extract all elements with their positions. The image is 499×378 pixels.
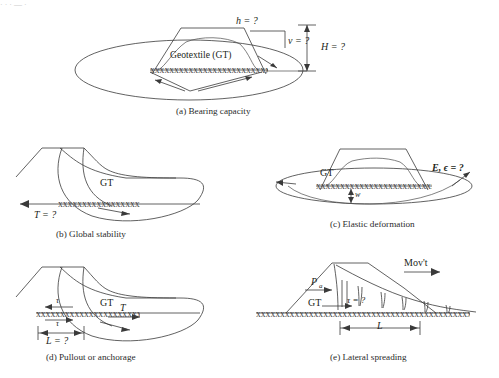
panel-d-tau-bottom-label: τ — [56, 320, 59, 328]
panel-a-artwork — [75, 25, 316, 100]
panel-d-caption: (d) Pullout or anchorage — [46, 352, 136, 362]
figure-geotextile-design-cases: · · · — · — [0, 0, 499, 378]
panel-b-geotextile-marker: xxxxxxxxxxxxxxxxxxxxxxxxxxxxxxxxxxxxxxxx… — [58, 198, 140, 209]
panel-e-movement-label: Mov't — [404, 258, 427, 268]
panel-b-gt-label: GT — [100, 178, 113, 188]
panel-b-T-label: T = ? — [34, 210, 56, 220]
panel-c-gt-label: GT — [320, 168, 333, 178]
panel-a-h-label: h = ? — [236, 16, 258, 26]
panel-c-artwork — [276, 149, 472, 204]
panel-a-v-label: v = ? — [288, 36, 309, 46]
panel-d-L-label: L = ? — [46, 336, 68, 346]
panel-c-caption: (c) Elastic deformation — [330, 219, 415, 229]
panel-e-gt-label: GT — [308, 298, 321, 308]
panel-e-tau-label: τ = ? — [347, 296, 365, 305]
panel-c-w-label: w — [355, 191, 360, 199]
panel-e-artwork — [256, 263, 476, 335]
panel-d-geotextile-marker: xxxxxxxxxxxxxxxxxxxxxxxxxxxxxxxxxxxxxxxx… — [36, 308, 140, 319]
panel-e-active-pressure-label: P — [311, 277, 317, 287]
panel-e-geotextile-marker: xxxxxxxxxxxxxxxxxxxxxxxxxxxxxxxxxxxxxxxx… — [256, 308, 470, 319]
panel-d-gt-label: GT — [100, 298, 113, 308]
panel-c-modulus-strain-label: E, ϵ = ? — [432, 163, 464, 173]
panel-e-L-label: L — [377, 321, 383, 331]
panel-a-caption: (a) Bearing capacity — [176, 106, 250, 116]
panel-a-geotextile-callout: Geotextile (GT) — [170, 50, 232, 60]
panel-e-caption: (e) Lateral spreading — [330, 352, 407, 362]
panel-a-geotextile-marker: xxxxxxxxxxxxxxxxxxxxxxxxxxxxxxxxxxxxxxxx… — [150, 64, 268, 75]
panel-b-caption: (b) Global stability — [56, 229, 126, 239]
panel-c-geotextile-marker: xxxxxxxxxxxxxxxxxxxxxxxxxxxxxxxxxxxxxxxx… — [316, 180, 432, 191]
panel-d-tau-top-label: τ — [56, 297, 59, 305]
panel-a-H-label: H = ? — [321, 42, 345, 52]
panel-e-active-pressure-subscript: a — [319, 283, 323, 290]
